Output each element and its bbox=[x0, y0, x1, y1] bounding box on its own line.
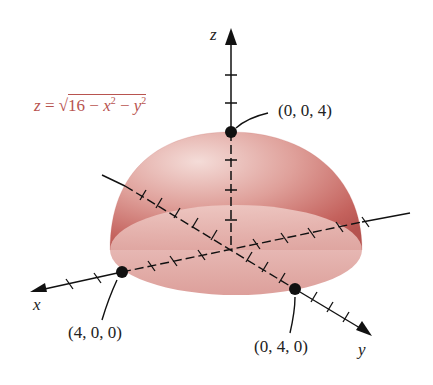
x-arrow-icon bbox=[30, 283, 47, 292]
point-label-4-0-0: (4, 0, 0) bbox=[68, 323, 122, 343]
hemisphere-base bbox=[110, 205, 362, 295]
point-0-4-0 bbox=[289, 283, 301, 295]
point-4-0-0 bbox=[116, 266, 128, 278]
leader-4-0-0 bbox=[102, 280, 117, 320]
z-axis-label: z bbox=[210, 25, 217, 45]
leader-0-4-0 bbox=[290, 297, 295, 333]
hemisphere-figure: z = √16 − x2 − y2 z x y (0, 0, 4) (4, 0,… bbox=[0, 0, 433, 385]
leader-0-0-4 bbox=[236, 113, 268, 128]
surface-equation: z = √16 − x2 − y2 bbox=[34, 95, 146, 116]
point-label-0-4-0: (0, 4, 0) bbox=[254, 337, 308, 357]
z-arrow-icon bbox=[225, 28, 237, 45]
y-arrow-icon bbox=[356, 321, 372, 336]
hemisphere-graphic bbox=[0, 0, 433, 385]
point-label-0-0-4: (0, 0, 4) bbox=[278, 101, 332, 121]
x-axis-label: x bbox=[33, 295, 41, 315]
y-axis-label: y bbox=[358, 340, 366, 360]
point-0-0-4 bbox=[225, 126, 237, 138]
